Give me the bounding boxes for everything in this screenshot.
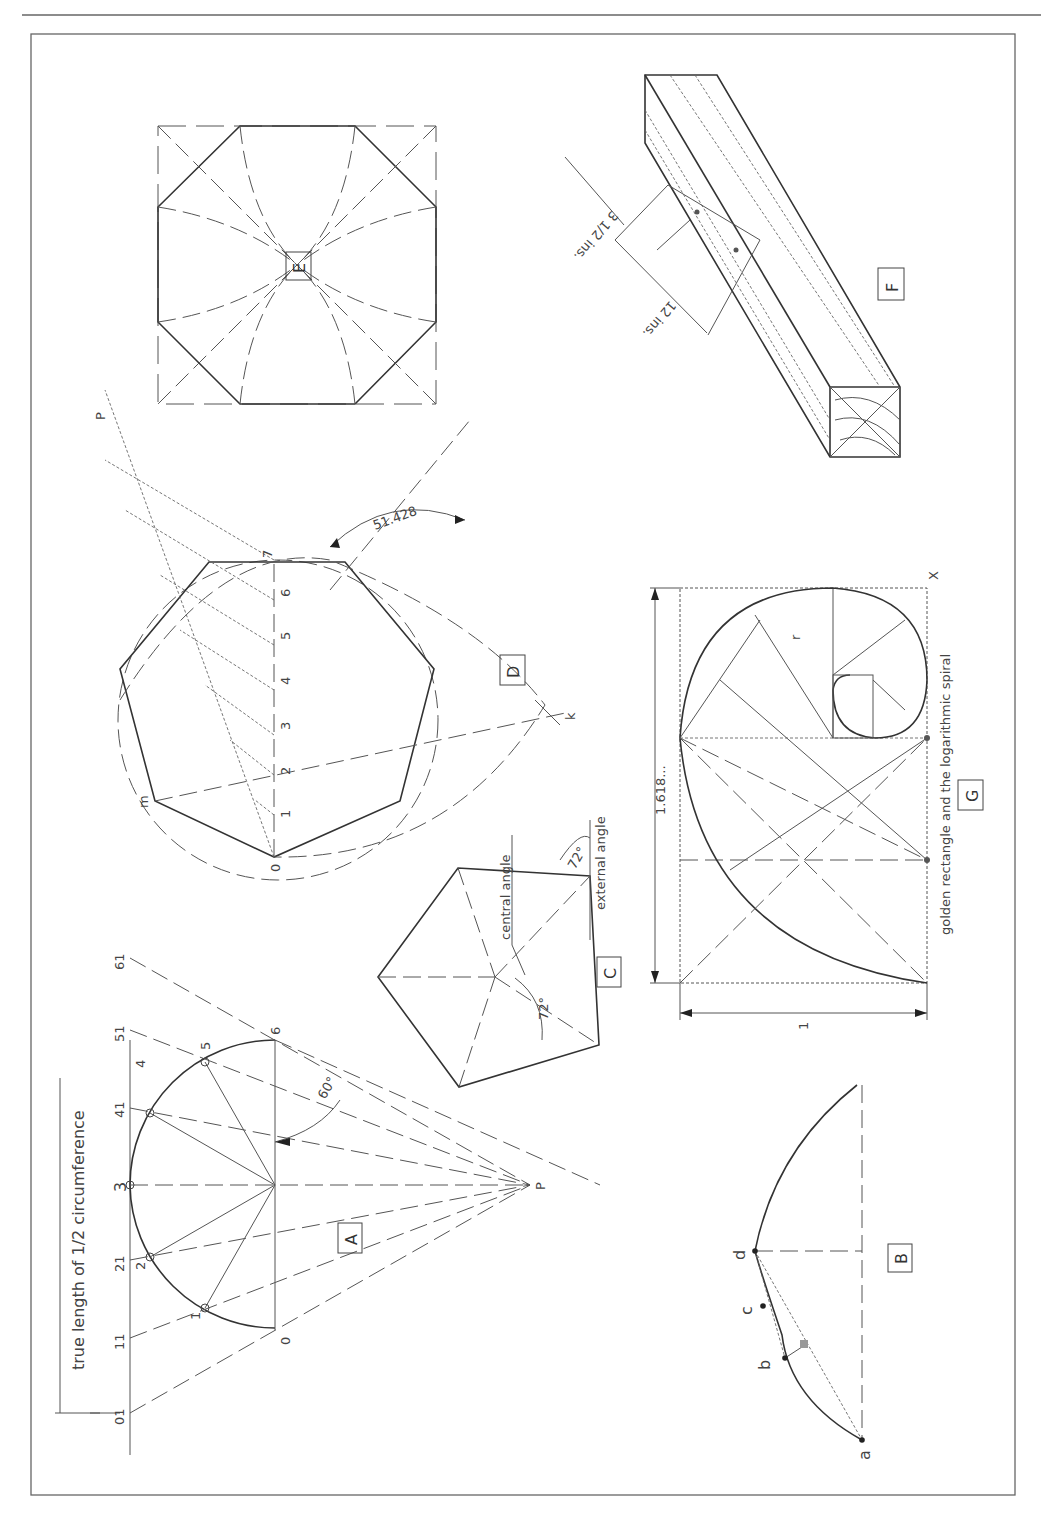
sheet-frame — [31, 34, 1015, 1495]
svg-text:0: 0 — [278, 1337, 293, 1345]
svg-text:3: 3 — [111, 1182, 130, 1192]
fig-a-arc-points: 0 1 2 4 5 6 — [133, 1027, 293, 1345]
fig-a-angle-label: 60° — [315, 1074, 340, 1101]
svg-text:5: 5 — [198, 1042, 213, 1050]
fig-a-dimension-text: true length of 1/2 circumference — [69, 1110, 88, 1370]
fig-a-pole-label: P — [533, 1182, 548, 1190]
svg-text:3: 3 — [278, 722, 293, 730]
figure-d — [105, 390, 570, 880]
figure-b — [752, 1085, 912, 1443]
svg-text:5: 5 — [278, 632, 293, 640]
svg-text:11: 11 — [112, 1333, 127, 1350]
fig-d-box-label: D — [504, 666, 523, 678]
fig-b-point-c: c — [737, 1306, 756, 1315]
fig-b-point-b: b — [755, 1360, 774, 1370]
figure-a — [55, 958, 600, 1455]
fig-b-box-label: B — [892, 1253, 911, 1264]
svg-text:A: A — [342, 1234, 361, 1245]
figure-f — [565, 75, 904, 457]
fig-d-scale-points: 0 1 2 3 4 5 6 7 — [260, 550, 293, 872]
fig-g-short-dim: 1 — [796, 1022, 811, 1030]
fig-e-box-label: E — [290, 263, 309, 273]
svg-text:01: 01 — [112, 1408, 127, 1425]
fig-c-central-value: 72° — [536, 997, 551, 1020]
svg-text:0: 0 — [268, 864, 283, 872]
fig-d-angle-value: 51.428 — [371, 503, 419, 533]
fig-a-line-points: 01 11 21 3 41 51 61 — [111, 953, 130, 1425]
fig-g-corner-label: X — [926, 571, 941, 580]
fig-d-label-p: P — [93, 412, 108, 420]
svg-text:1: 1 — [188, 1312, 203, 1320]
fig-c-external-label: external angle — [593, 816, 608, 910]
svg-text:51: 51 — [112, 1025, 127, 1042]
fig-f-dim-b: 12 ins. — [640, 298, 679, 341]
svg-text:2: 2 — [133, 1262, 148, 1270]
svg-text:6: 6 — [268, 1027, 283, 1035]
fig-c-box: C — [597, 957, 621, 987]
svg-text:7: 7 — [260, 550, 275, 558]
fig-f-dim-a: 3 1/2 ins. — [571, 208, 621, 264]
fig-g-caption: golden rectangle and the logarithmic spi… — [938, 654, 953, 935]
svg-text:61: 61 — [112, 953, 127, 970]
svg-text:4: 4 — [133, 1060, 148, 1068]
fig-g-radius-label: r — [788, 634, 803, 640]
svg-text:41: 41 — [112, 1101, 127, 1118]
fig-c-central-label: central angle — [498, 854, 513, 940]
svg-text:6: 6 — [278, 589, 293, 597]
fig-d-label-m: m — [136, 795, 151, 808]
fig-g-long-dim: 1.618... — [653, 765, 668, 815]
drawing-sheet: true length of 1/2 circumference 60° P 0… — [0, 0, 1041, 1517]
svg-text:C: C — [601, 968, 620, 979]
svg-text:1: 1 — [278, 810, 293, 818]
svg-text:4: 4 — [278, 677, 293, 685]
fig-f-box-label: F — [883, 283, 902, 292]
fig-d-label-k: k — [563, 712, 578, 720]
fig-b-point-a: a — [855, 1450, 874, 1460]
svg-text:2: 2 — [278, 767, 293, 775]
fig-a-box: A — [338, 1223, 362, 1253]
svg-text:21: 21 — [112, 1255, 127, 1272]
figure-g — [650, 588, 983, 1020]
fig-g-box-label: G — [963, 790, 982, 802]
fig-b-point-d: d — [730, 1250, 749, 1260]
